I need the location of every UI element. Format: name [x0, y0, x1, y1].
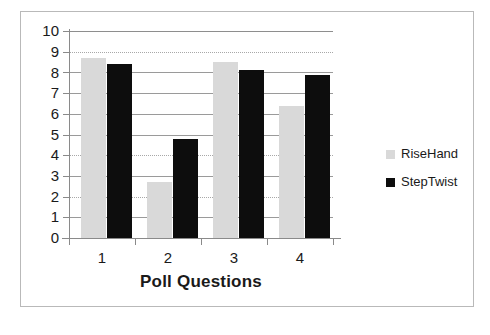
y-tick-label: 7 — [29, 85, 59, 100]
bar-risehand — [213, 62, 238, 238]
bar-group — [272, 31, 338, 238]
bar-steptwist — [173, 139, 198, 238]
plot-area — [69, 31, 333, 238]
legend-swatch-icon — [386, 150, 395, 159]
y-tick-label: 8 — [29, 65, 59, 80]
x-tick-label: 4 — [280, 250, 320, 266]
x-tick-label: 1 — [82, 250, 122, 266]
y-tick-label: 5 — [29, 127, 59, 142]
y-tick-label: 1 — [29, 209, 59, 224]
bar-group — [206, 31, 272, 238]
bar-risehand — [279, 106, 304, 239]
legend-label: StepTwist — [401, 175, 457, 189]
legend-swatch-icon — [386, 178, 395, 187]
x-tick-mark — [201, 238, 202, 245]
bar-steptwist — [107, 64, 132, 238]
y-tick-label: 2 — [29, 189, 59, 204]
bar-risehand — [147, 182, 172, 238]
legend-item-risehand: RiseHand — [386, 140, 476, 168]
y-tick-label: 10 — [29, 23, 59, 38]
x-tick-label: 3 — [214, 250, 254, 266]
y-tick-label: 9 — [29, 44, 59, 59]
chart-legend: RiseHand StepTwist — [386, 140, 476, 196]
bar-steptwist — [239, 70, 264, 238]
x-tick-mark — [135, 238, 136, 245]
x-axis-title: Poll Questions — [69, 272, 333, 292]
y-axis-tick-labels: 10 9 8 7 6 5 4 3 2 1 0 — [27, 0, 59, 335]
bar-risehand — [81, 58, 106, 238]
y-tick-label: 6 — [29, 106, 59, 121]
legend-label: RiseHand — [401, 147, 458, 161]
y-tick-label: 4 — [29, 147, 59, 162]
x-tick-mark — [267, 238, 268, 245]
bar-group — [74, 31, 140, 238]
bar-group — [140, 31, 206, 238]
bar-steptwist — [305, 75, 330, 239]
legend-item-steptwist: StepTwist — [386, 168, 476, 196]
y-tick-label: 3 — [29, 168, 59, 183]
x-tick-mark — [69, 238, 70, 245]
x-tick-label: 2 — [148, 250, 188, 266]
x-tick-mark — [333, 238, 334, 245]
y-axis-line — [69, 29, 70, 240]
y-tick-label: 0 — [29, 230, 59, 245]
